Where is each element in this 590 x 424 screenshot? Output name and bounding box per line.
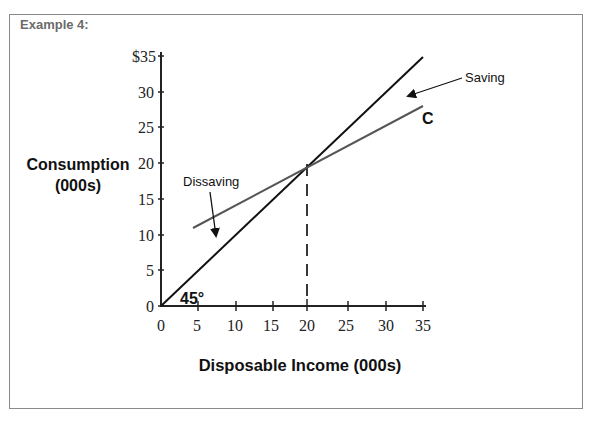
- dissaving-arrow: [210, 192, 216, 236]
- consumption-chart: 0 5 10 15 20 25 30 $35 0 5 10 15 20 25 3…: [0, 0, 590, 424]
- svg-text:0: 0: [146, 298, 154, 315]
- svg-text:0: 0: [157, 317, 165, 334]
- svg-text:20: 20: [299, 317, 315, 334]
- y-tick-labels: 0 5 10 15 20 25 30 $35: [132, 48, 156, 315]
- svg-text:15: 15: [138, 191, 154, 208]
- saving-label: Saving: [465, 70, 505, 85]
- dissaving-label: Dissaving: [183, 174, 239, 189]
- svg-text:35: 35: [415, 317, 431, 334]
- saving-arrow: [408, 78, 462, 96]
- svg-text:15: 15: [263, 317, 279, 334]
- c-label: C: [422, 110, 434, 127]
- angle-label: 45°: [180, 290, 204, 307]
- svg-text:10: 10: [138, 227, 154, 244]
- svg-text:20: 20: [138, 155, 154, 172]
- svg-text:$35: $35: [132, 48, 156, 65]
- svg-text:30: 30: [138, 84, 154, 101]
- x-tick-labels: 0 5 10 15 20 25 30 35: [157, 317, 431, 334]
- svg-text:25: 25: [138, 119, 154, 136]
- svg-text:5: 5: [146, 262, 154, 279]
- svg-text:5: 5: [193, 317, 201, 334]
- svg-text:25: 25: [338, 317, 354, 334]
- line-consumption-c: [193, 106, 423, 228]
- svg-text:30: 30: [378, 317, 394, 334]
- svg-text:10: 10: [227, 317, 243, 334]
